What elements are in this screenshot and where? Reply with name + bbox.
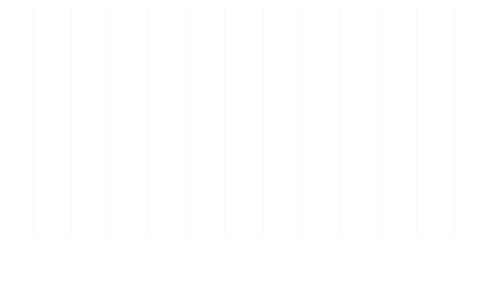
- line-chart: [0, 0, 485, 291]
- x-axis: [0, 240, 485, 291]
- series-line-layer: [0, 0, 485, 240]
- plot-area: [0, 0, 485, 240]
